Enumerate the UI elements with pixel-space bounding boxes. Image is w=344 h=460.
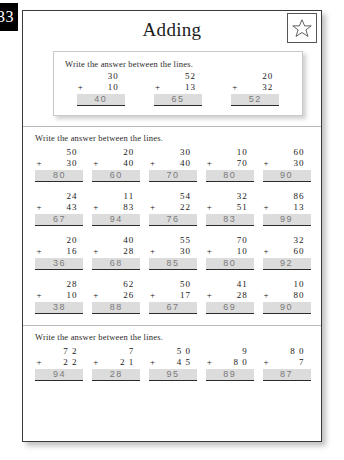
answer-slot[interactable]: 80: [35, 170, 83, 182]
addend-bottom: 2 1: [120, 357, 134, 368]
problem: 30 + 10 40: [77, 71, 125, 106]
addend-bottom-line: +2 1: [92, 357, 140, 368]
addend-top: 8 0: [263, 346, 311, 357]
plus-sign: +: [149, 290, 156, 301]
problem: 62+2688: [92, 279, 140, 314]
addend-bottom-line: +40: [149, 158, 197, 169]
answer-slot[interactable]: 28: [92, 369, 140, 381]
answer-slot[interactable]: 87: [263, 369, 311, 381]
addend-bottom-line: +51: [206, 202, 254, 213]
addend-bottom-line: +30: [35, 158, 83, 169]
addend-bottom: 43: [66, 202, 77, 213]
problem: 41+2869: [206, 279, 254, 314]
answer-slot[interactable]: 90: [263, 302, 311, 314]
addend-top: 32: [263, 235, 311, 246]
addend-bottom: 30: [294, 158, 305, 169]
example-problem-row: 30 + 10 40 52 + 13 65 20 + 32: [62, 71, 294, 106]
plus-sign: +: [92, 290, 99, 301]
problem-row: 24+436711+839454+227632+518386+1399: [31, 191, 315, 226]
addend-bottom: 60: [294, 246, 305, 257]
addend-bottom-line: +17: [149, 290, 197, 301]
addend-top: 50: [149, 279, 197, 290]
page-number-badge: 33: [0, 3, 18, 31]
problem: 54+2276: [149, 191, 197, 226]
answer-slot[interactable]: 85: [149, 258, 197, 270]
plus-sign: +: [263, 202, 270, 213]
addend-bottom-line: +2 2: [35, 357, 83, 368]
addend-top: 40: [92, 235, 140, 246]
addend-bottom-line: +22: [149, 202, 197, 213]
addend-bottom: 70: [237, 158, 248, 169]
answer-slot[interactable]: 65: [154, 94, 202, 106]
addend-top: 50: [35, 147, 83, 158]
answer-slot[interactable]: 83: [206, 214, 254, 226]
answer-slot[interactable]: 60: [92, 170, 140, 182]
answer-slot[interactable]: 69: [206, 302, 254, 314]
problem: 50+3080: [35, 147, 83, 182]
problem: 7 2+2 294: [35, 346, 83, 381]
addend-top: 7: [92, 346, 140, 357]
addend-bottom-line: + 10: [77, 82, 125, 93]
answer-slot[interactable]: 99: [263, 214, 311, 226]
addend-bottom: 8 0: [234, 357, 248, 368]
addend-top: 7 2: [35, 346, 83, 357]
plus-sign: +: [263, 158, 270, 169]
addend-top: 5 0: [149, 346, 197, 357]
problem: 20+1636: [35, 235, 83, 270]
plus-sign: +: [35, 158, 42, 169]
plus-sign: +: [263, 290, 270, 301]
answer-slot[interactable]: 95: [149, 369, 197, 381]
addend-bottom: 80: [294, 290, 305, 301]
plus-sign: +: [77, 82, 84, 93]
problem: 86+1399: [263, 191, 311, 226]
addend-top: 55: [149, 235, 197, 246]
answer-slot[interactable]: 36: [35, 258, 83, 270]
problem: 10+7080: [206, 147, 254, 182]
addend-top: 32: [206, 191, 254, 202]
answer-slot[interactable]: 94: [35, 369, 83, 381]
problem: 40+2868: [92, 235, 140, 270]
answer-slot[interactable]: 94: [92, 214, 140, 226]
addend-top: 54: [149, 191, 197, 202]
addend-top: 9: [206, 346, 254, 357]
answer-slot[interactable]: 38: [35, 302, 83, 314]
answer-slot[interactable]: 67: [149, 302, 197, 314]
addend-bottom: 28: [123, 246, 134, 257]
plus-sign: +: [35, 202, 42, 213]
addend-bottom: 51: [237, 202, 248, 213]
plus-sign: +: [149, 158, 156, 169]
addend-bottom-line: +28: [92, 246, 140, 257]
answer-slot[interactable]: 80: [206, 170, 254, 182]
addend-top: 20: [92, 147, 140, 158]
answer-slot[interactable]: 89: [206, 369, 254, 381]
addend-bottom: 22: [180, 202, 191, 213]
addend-bottom: 17: [180, 290, 191, 301]
addend-bottom-line: +60: [263, 246, 311, 257]
addend-bottom-line: +16: [35, 246, 83, 257]
answer-slot[interactable]: 88: [92, 302, 140, 314]
addend-bottom-line: +83: [92, 202, 140, 213]
answer-slot[interactable]: 52: [231, 94, 279, 106]
plus-sign: +: [206, 246, 213, 257]
answer-slot[interactable]: 92: [263, 258, 311, 270]
problem: 52 + 13 65: [154, 71, 202, 106]
answer-slot[interactable]: 67: [35, 214, 83, 226]
answer-slot[interactable]: 90: [263, 170, 311, 182]
problem: 10+8090: [263, 279, 311, 314]
addend-bottom: 10: [237, 246, 248, 257]
answer-slot[interactable]: 80: [206, 258, 254, 270]
main-instruction: Write the answer between the lines.: [35, 133, 315, 143]
addend-bottom: 13: [185, 82, 196, 93]
addend-bottom-line: +28: [206, 290, 254, 301]
problem: 60+3090: [263, 147, 311, 182]
worksheet-page: Adding Write the answer between the line…: [22, 10, 322, 442]
answer-slot[interactable]: 68: [92, 258, 140, 270]
answer-slot[interactable]: 76: [149, 214, 197, 226]
problem: 20+4060: [92, 147, 140, 182]
plus-sign: +: [35, 357, 42, 368]
answer-slot[interactable]: 70: [149, 170, 197, 182]
page-header: Adding: [23, 11, 321, 49]
answer-slot[interactable]: 40: [77, 94, 125, 106]
addend-top: 11: [92, 191, 140, 202]
addend-bottom: 83: [123, 202, 134, 213]
